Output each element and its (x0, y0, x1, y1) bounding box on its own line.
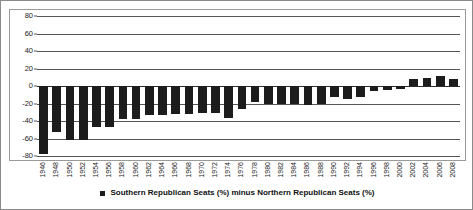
bar-1992 (343, 16, 352, 156)
bar-rect-1946 (39, 86, 48, 154)
bar-1994 (356, 16, 365, 156)
bar-rect-1982 (277, 86, 286, 104)
bar-1982 (277, 16, 286, 156)
x-tick-label-1998: 1998 (383, 162, 390, 178)
bars-group (37, 16, 460, 156)
x-tick-label-1978: 1978 (251, 162, 258, 178)
gridline--80 (37, 156, 460, 157)
x-tick-label-1992: 1992 (343, 162, 350, 178)
bar-rect-1996 (370, 86, 379, 91)
y-tick-label-60: 60 (25, 30, 33, 38)
x-tick-label-1972: 1972 (211, 162, 218, 178)
bar-rect-1966 (171, 86, 180, 114)
bar-1976 (238, 16, 247, 156)
bar-rect-2002 (409, 79, 418, 86)
bar-rect-1998 (383, 86, 392, 90)
bar-1952 (79, 16, 88, 156)
bar-rect-1952 (79, 86, 88, 140)
bar-rect-2006 (436, 76, 445, 86)
x-tick-label-1962: 1962 (145, 162, 152, 178)
x-tick-label-2000: 2000 (396, 162, 403, 178)
x-tick-label-2004: 2004 (422, 162, 429, 178)
bar-2008 (449, 16, 458, 156)
bar-rect-1954 (92, 86, 101, 127)
bar-rect-1956 (105, 86, 114, 127)
x-tick-label-1958: 1958 (118, 162, 125, 178)
x-tick-label-1968: 1968 (185, 162, 192, 178)
bar-rect-1958 (119, 86, 128, 119)
bar-rect-1990 (330, 86, 339, 97)
y-tick-label-40: 40 (25, 47, 33, 55)
x-tick-label-1946: 1946 (39, 162, 46, 178)
x-tick-label-1988: 1988 (317, 162, 324, 178)
x-tick-label-1974: 1974 (224, 162, 231, 178)
bar-1960 (132, 16, 141, 156)
bar-rect-1994 (356, 86, 365, 97)
bar-rect-1968 (185, 86, 194, 114)
bar-rect-2000 (396, 86, 405, 89)
y-tick-label-20: 20 (25, 65, 33, 73)
x-tick-label-1952: 1952 (79, 162, 86, 178)
x-tick-label-1982: 1982 (277, 162, 284, 178)
y-tick-label--20: -20 (22, 100, 33, 108)
bar-1974 (224, 16, 233, 156)
bar-1970 (198, 16, 207, 156)
bar-1972 (211, 16, 220, 156)
y-tick-label-80: 80 (25, 12, 33, 20)
bar-1986 (304, 16, 313, 156)
bar-rect-1948 (52, 86, 61, 132)
bar-rect-1976 (238, 86, 247, 109)
bar-rect-1964 (158, 86, 167, 115)
bar-1956 (105, 16, 114, 156)
y-tick-label--40: -40 (22, 117, 33, 125)
x-tick-label-1966: 1966 (171, 162, 178, 178)
bar-rect-1970 (198, 86, 207, 113)
bar-1950 (66, 16, 75, 156)
bar-rect-1984 (290, 86, 299, 104)
x-tick-label-1994: 1994 (356, 162, 363, 178)
bar-rect-1972 (211, 86, 220, 113)
bar-1998 (383, 16, 392, 156)
bar-rect-1962 (145, 86, 154, 115)
x-tick-label-1990: 1990 (330, 162, 337, 178)
x-tick-label-1976: 1976 (237, 162, 244, 178)
x-tick-label-1948: 1948 (52, 162, 59, 178)
x-tick-label-1956: 1956 (105, 162, 112, 178)
bar-1980 (264, 16, 273, 156)
x-tick-label-2008: 2008 (449, 162, 456, 178)
bar-rect-1950 (66, 86, 75, 140)
bar-1958 (119, 16, 128, 156)
bar-1954 (92, 16, 101, 156)
bar-2000 (396, 16, 405, 156)
x-tick-label-1950: 1950 (66, 162, 73, 178)
bar-rect-2004 (423, 78, 432, 86)
x-tick-label-1970: 1970 (198, 162, 205, 178)
bar-1984 (290, 16, 299, 156)
bar-1962 (145, 16, 154, 156)
chart-legend: Southern Republican Seats (%) minus Nort… (1, 189, 473, 197)
bar-rect-1980 (264, 86, 273, 104)
bar-1948 (52, 16, 61, 156)
bar-1988 (317, 16, 326, 156)
x-tick-label-1984: 1984 (290, 162, 297, 178)
bar-2002 (409, 16, 418, 156)
legend-label: Southern Republican Seats (%) minus Nort… (110, 189, 374, 197)
bar-1978 (251, 16, 260, 156)
x-tick-label-1954: 1954 (92, 162, 99, 178)
bar-rect-1974 (224, 86, 233, 118)
x-tick-label-2002: 2002 (409, 162, 416, 178)
x-tick-label-2006: 2006 (436, 162, 443, 178)
chart-frame: 806040200-20-40-60-80 194619481950195219… (0, 0, 473, 210)
bar-rect-1960 (132, 86, 141, 119)
bar-1946 (39, 16, 48, 156)
bar-1964 (158, 16, 167, 156)
bar-1966 (171, 16, 180, 156)
x-tick-label-1964: 1964 (158, 162, 165, 178)
bar-rect-1986 (304, 86, 313, 105)
legend-square-marker-icon (100, 191, 105, 196)
bar-2004 (423, 16, 432, 156)
bar-1996 (370, 16, 379, 156)
y-tick-label-0: 0 (29, 82, 33, 90)
bar-rect-2008 (449, 79, 458, 86)
bar-rect-1992 (343, 86, 352, 99)
